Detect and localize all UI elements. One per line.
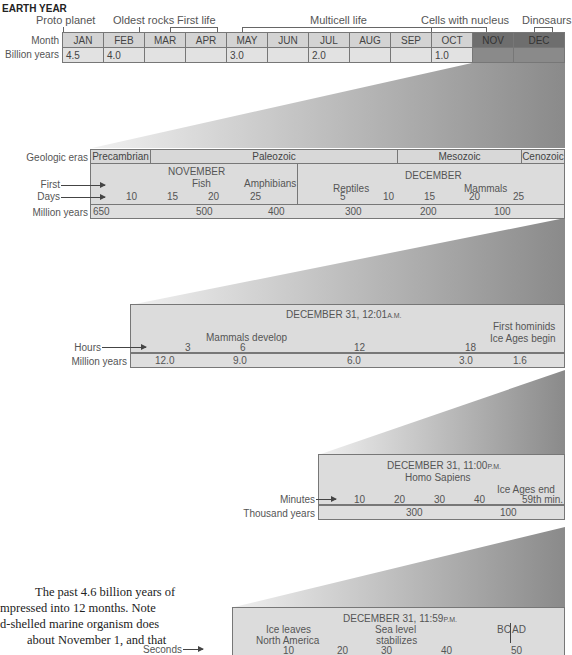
my-1-6: 1.6 bbox=[513, 355, 527, 366]
minutes-heading-text: DECEMBER 31, 11:00 bbox=[387, 460, 487, 471]
my-100: 100 bbox=[494, 206, 511, 217]
thousand-years-label: Thousand years bbox=[0, 508, 315, 519]
hours-arrow-icon bbox=[102, 347, 146, 348]
ad-label: AD bbox=[512, 624, 526, 635]
day-25-nov: 25 bbox=[250, 191, 261, 202]
second-20: 20 bbox=[337, 645, 348, 655]
my-650: 650 bbox=[93, 206, 110, 217]
caption-line-3: d-shelled marine organism does bbox=[0, 617, 159, 632]
day-20-dec: 20 bbox=[469, 191, 480, 202]
minute-30: 30 bbox=[434, 494, 445, 505]
minute-40: 40 bbox=[474, 494, 485, 505]
first-label: First bbox=[0, 179, 60, 190]
event-fish: Fish bbox=[192, 178, 211, 189]
caption-line-2: mpressed into 12 months. Note bbox=[0, 601, 156, 616]
my-9: 9.0 bbox=[233, 355, 247, 366]
second-40: 40 bbox=[441, 645, 452, 655]
bc-ad-divider bbox=[510, 623, 511, 643]
era-precambrian: Precambrian bbox=[90, 149, 151, 164]
hour-3: 3 bbox=[185, 342, 191, 353]
caption-line-1: The past 4.6 billion years of bbox=[35, 585, 175, 600]
era-cenozoic: Cenozoic bbox=[521, 149, 565, 164]
era-mesozoic: Mesozoic bbox=[397, 149, 522, 164]
my-200: 200 bbox=[420, 206, 437, 217]
my-12: 12.0 bbox=[155, 355, 174, 366]
seconds-heading-text: DECEMBER 31, 11:59 bbox=[343, 613, 443, 624]
million-years-label-2: Million years bbox=[0, 207, 88, 218]
my-3: 3.0 bbox=[459, 355, 473, 366]
minutes-heading-suffix: P.M. bbox=[487, 463, 501, 470]
second-50: 50 bbox=[511, 645, 522, 655]
bc-label: BC bbox=[497, 624, 511, 635]
day-25-dec: 25 bbox=[513, 191, 524, 202]
day-15-nov: 15 bbox=[167, 191, 178, 202]
event-59th-min: 59th min. bbox=[522, 494, 563, 505]
day-5-dec: 5 bbox=[340, 191, 346, 202]
day-20-nov: 20 bbox=[208, 191, 219, 202]
hours-heading-text: DECEMBER 31, 12:01 bbox=[286, 309, 387, 320]
hours-label: Hours bbox=[0, 342, 101, 353]
seconds-arrow-icon bbox=[183, 649, 203, 650]
my-400: 400 bbox=[268, 206, 285, 217]
second-30: 30 bbox=[381, 645, 392, 655]
event-ice-ages-begin: Ice Ages begin bbox=[490, 333, 556, 344]
minute-20: 20 bbox=[394, 494, 405, 505]
day-15-dec: 15 bbox=[424, 191, 435, 202]
my-500: 500 bbox=[196, 206, 213, 217]
geologic-eras-label: Geologic eras bbox=[0, 152, 88, 163]
my-300: 300 bbox=[345, 206, 362, 217]
first-arrow-icon bbox=[61, 185, 105, 186]
thousand-years-row bbox=[318, 505, 565, 520]
day-10-dec: 10 bbox=[383, 191, 394, 202]
days-label: Days bbox=[0, 191, 60, 202]
seconds-heading: DECEMBER 31, 11:59P.M. bbox=[343, 613, 457, 624]
minutes-label: Minutes bbox=[0, 494, 315, 505]
ty-300: 300 bbox=[406, 507, 423, 518]
hours-heading: DECEMBER 31, 12:01A.M. bbox=[286, 309, 402, 320]
minutes-heading: DECEMBER 31, 11:00P.M. bbox=[387, 460, 501, 471]
days-arrow-icon bbox=[61, 197, 105, 198]
hour-12: 12 bbox=[354, 342, 365, 353]
event-mammals-develop: Mammals develop bbox=[206, 332, 287, 343]
my-6: 6.0 bbox=[347, 355, 361, 366]
event-sea-level: Sea level bbox=[375, 624, 416, 635]
minute-10: 10 bbox=[354, 494, 365, 505]
hours-heading-suffix: A.M. bbox=[387, 312, 401, 319]
event-first-hominids: First hominids bbox=[493, 321, 555, 332]
ty-100: 100 bbox=[500, 507, 517, 518]
day-10-nov: 10 bbox=[126, 191, 137, 202]
november-label: NOVEMBER bbox=[168, 166, 225, 177]
seconds-heading-suffix: P.M. bbox=[443, 616, 457, 623]
minutes-arrow-icon bbox=[316, 499, 336, 500]
hour-6: 6 bbox=[240, 342, 246, 353]
nov-dec-divider bbox=[297, 163, 298, 205]
million-years-label-3: Million years bbox=[0, 356, 127, 367]
caption-line-4: about November 1, and that bbox=[27, 633, 166, 648]
hour-18: 18 bbox=[465, 342, 476, 353]
event-reptiles: Reptiles bbox=[333, 183, 369, 194]
december-label: DECEMBER bbox=[405, 170, 462, 181]
event-homo-sapiens: Homo Sapiens bbox=[405, 472, 471, 483]
event-amphibians: Amphibians bbox=[244, 178, 296, 189]
era-paleozoic: Paleozoic bbox=[150, 149, 398, 164]
second-10: 10 bbox=[283, 645, 294, 655]
event-ice-leaves: Ice leaves bbox=[266, 624, 311, 635]
